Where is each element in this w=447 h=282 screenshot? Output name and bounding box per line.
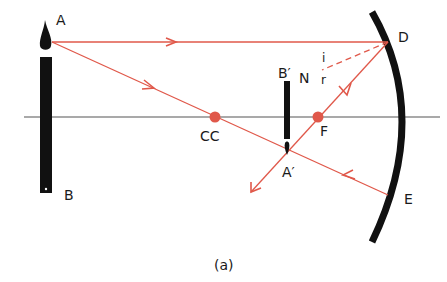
label-r: r bbox=[321, 73, 326, 87]
label-B-prime: B′ bbox=[278, 65, 291, 81]
label-D: D bbox=[398, 29, 409, 45]
label-A-prime: A′ bbox=[282, 164, 295, 180]
figure-caption: (a) bbox=[214, 257, 234, 273]
label-A: A bbox=[56, 12, 66, 28]
image-flame-icon bbox=[285, 142, 290, 156]
candle-base-dot bbox=[45, 188, 47, 190]
ray-diagram: A B B′ N i r D F CC A′ E (a) bbox=[0, 0, 447, 282]
image-body bbox=[284, 81, 290, 139]
focus-point bbox=[313, 112, 324, 123]
label-F: F bbox=[320, 123, 328, 139]
centre-of-curvature-point bbox=[210, 112, 221, 123]
arrow-head-icon bbox=[343, 170, 355, 179]
normal-line bbox=[322, 42, 388, 70]
candle-flame-icon bbox=[40, 20, 52, 50]
label-i: i bbox=[322, 51, 325, 65]
object-candle bbox=[40, 20, 52, 193]
label-N: N bbox=[299, 70, 309, 86]
label-E: E bbox=[404, 191, 413, 207]
image-candle bbox=[284, 81, 290, 155]
label-CC: CC bbox=[200, 128, 220, 144]
candle-body bbox=[40, 57, 52, 193]
label-B: B bbox=[64, 187, 74, 203]
